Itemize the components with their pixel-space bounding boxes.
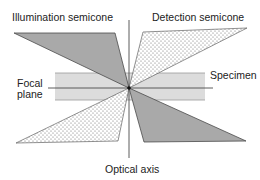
optical-axis-label: Optical axis <box>105 164 159 175</box>
illumination-semicone-label: Illumination semicone <box>12 12 113 23</box>
detection-semicone-label: Detection semicone <box>152 12 244 23</box>
specimen-label: Specimen <box>210 70 257 81</box>
focal-point <box>127 86 131 90</box>
focal-plane-label-line2: plane <box>17 89 43 100</box>
